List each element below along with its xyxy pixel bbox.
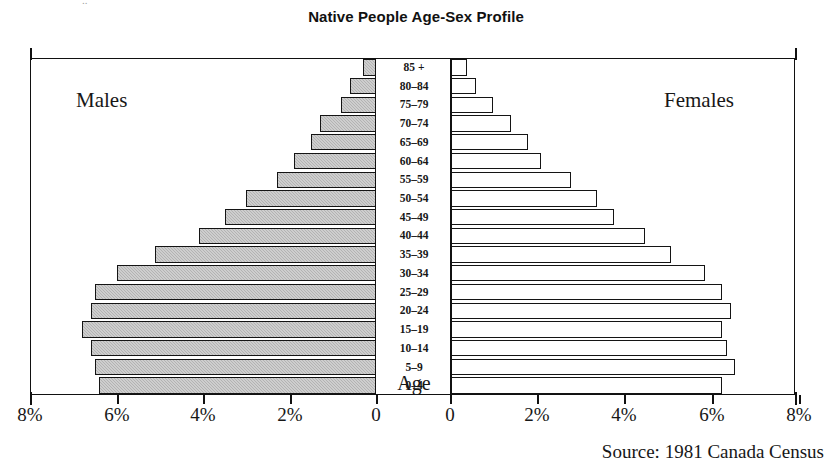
x-axis-females-tick [624, 395, 626, 404]
bar-males-65-69 [311, 134, 376, 150]
age-group-labels: 85 +80–8475–7970–7465–6960–6455–5950–544… [378, 58, 450, 395]
x-axis-females-tick-label: 6% [684, 404, 740, 426]
bar-row [450, 208, 795, 227]
bar-males-50-54 [246, 190, 376, 206]
bar-row [30, 339, 376, 358]
bar-females-55-59 [450, 172, 571, 188]
bar-females-80-84 [450, 78, 476, 94]
bar-row [450, 283, 795, 302]
bar-males-10-14 [91, 340, 376, 356]
bar-males-30-34 [117, 265, 377, 281]
age-group-label: 40–44 [378, 226, 450, 245]
bar-row [30, 226, 376, 245]
bar-males-45-49 [225, 209, 376, 225]
bar-row [30, 301, 376, 320]
bar-females-40-44 [450, 228, 645, 244]
bar-row [30, 208, 376, 227]
bar-males-55-59 [277, 172, 376, 188]
bar-males-35-39 [155, 246, 376, 262]
series-label-females: Females [664, 88, 734, 113]
bar-row [450, 114, 795, 133]
bar-males-15-19 [82, 321, 376, 337]
x-axis-males-tick [30, 395, 32, 404]
chart-title: Native People Age-Sex Profile [0, 8, 832, 25]
age-group-label: 50–54 [378, 189, 450, 208]
bar-row [30, 283, 376, 302]
bar-females-5-9 [450, 359, 735, 375]
bar-males-80-84 [350, 78, 376, 94]
x-axis-males-tick-label: 4% [175, 404, 231, 426]
scan-artifact-text: .. [82, 0, 88, 6]
bar-row [30, 170, 376, 189]
bar-row [450, 358, 795, 377]
bar-row [450, 189, 795, 208]
age-group-label: 10–14 [378, 339, 450, 358]
bar-females-30-34 [450, 265, 705, 281]
axis-end-tick-top-right [795, 48, 797, 60]
bar-row [450, 320, 795, 339]
x-axis-males-tick [117, 395, 119, 404]
x-axis-females-tick-label: 8% [771, 404, 827, 426]
age-group-label: 30–34 [378, 264, 450, 283]
x-axis-females-tick [799, 395, 801, 404]
age-group-label: 80–84 [378, 77, 450, 96]
bar-females-60-64 [450, 153, 541, 169]
population-pyramid-figure: .. Native People Age-Sex Profile 85 +80–… [0, 0, 832, 475]
zero-axis-males [375, 58, 377, 395]
age-group-label: 85 + [378, 58, 450, 77]
bar-males-60-64 [294, 153, 376, 169]
age-group-label: 15–19 [378, 320, 450, 339]
bar-females-45-49 [450, 209, 614, 225]
bar-males-40-44 [199, 228, 376, 244]
bar-females-75-79 [450, 97, 493, 113]
bar-row [30, 320, 376, 339]
age-axis-caption: Age [378, 372, 450, 395]
bar-males-5-9 [95, 359, 376, 375]
bar-males-25-29 [95, 284, 376, 300]
bar-row [30, 152, 376, 171]
bar-males-20-24 [91, 303, 376, 319]
age-group-label: 75–79 [378, 95, 450, 114]
scan-artifact: .. [82, 0, 122, 5]
x-axis-males-tick [203, 395, 205, 404]
bar-females-85 [450, 59, 467, 75]
bar-row [30, 189, 376, 208]
bar-males-75-79 [341, 97, 376, 113]
bar-males-0-4 [99, 377, 376, 393]
age-group-label: 70–74 [378, 114, 450, 133]
x-axis-males-tick [376, 395, 378, 404]
bar-row [450, 264, 795, 283]
age-group-label: 20–24 [378, 301, 450, 320]
bar-females-65-69 [450, 134, 528, 150]
source-note: Source: 1981 Canada Census [602, 441, 824, 463]
bar-row [450, 77, 795, 96]
bar-row [450, 133, 795, 152]
bar-row [450, 95, 795, 114]
bar-females-20-24 [450, 303, 731, 319]
bar-row [450, 152, 795, 171]
zero-axis-females [450, 58, 452, 395]
x-axis-males-tick-label: 0 [348, 404, 404, 426]
bar-row [450, 376, 795, 395]
bar-females-0-4 [450, 377, 722, 393]
bar-row [30, 376, 376, 395]
age-group-label: 25–29 [378, 283, 450, 302]
age-group-label: 65–69 [378, 133, 450, 152]
x-axis-males-tick-label: 2% [262, 404, 318, 426]
bar-females-35-39 [450, 246, 671, 262]
bar-females-25-29 [450, 284, 722, 300]
bar-row [450, 245, 795, 264]
bar-females-70-74 [450, 115, 511, 131]
x-axis-females-tick [537, 395, 539, 404]
bar-row [450, 301, 795, 320]
bar-row [30, 245, 376, 264]
bar-females-15-19 [450, 321, 722, 337]
bar-row [450, 226, 795, 245]
x-axis-females-tick [712, 395, 714, 404]
x-axis-males-tick [290, 395, 292, 404]
panel-females [450, 58, 795, 395]
bar-row [450, 339, 795, 358]
bar-row [450, 170, 795, 189]
bar-females-50-54 [450, 190, 597, 206]
age-group-label: 35–39 [378, 245, 450, 264]
